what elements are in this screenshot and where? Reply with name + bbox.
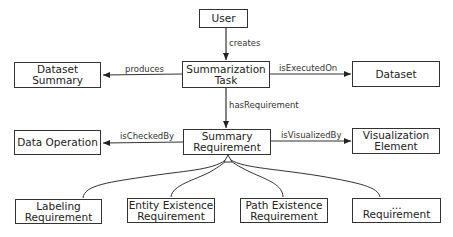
node-path-existence-requirement-line2: Requirement — [250, 211, 318, 222]
node-labeling-requirement[interactable]: Labeling Requirement — [15, 199, 102, 224]
edge-generalization-path — [228, 158, 283, 197]
generalization-triangle-icon — [224, 155, 232, 162]
edge-label-is-checked-by: isCheckedBy — [120, 131, 174, 141]
node-user-label: User — [212, 13, 236, 24]
node-user[interactable]: User — [199, 9, 248, 28]
node-summarization-task-line2: Task — [215, 75, 238, 86]
node-dataset[interactable]: Dataset — [352, 61, 440, 87]
node-summarization-task[interactable]: Summarization Task — [182, 61, 270, 88]
node-visualization-element[interactable]: Visualization Element — [352, 128, 440, 154]
edge-generalization-other — [228, 158, 380, 197]
node-dataset-summary[interactable]: Dataset Summary — [14, 62, 101, 88]
node-entity-existence-requirement-line2: Requirement — [137, 211, 205, 222]
node-summary-requirement-line2: Requirement — [193, 142, 261, 153]
node-visualization-element-line2: Element — [374, 141, 417, 152]
node-other-requirement[interactable]: ... Requirement — [352, 198, 441, 223]
edge-label-creates: creates — [229, 38, 260, 48]
node-labeling-requirement-line1: Labeling — [36, 201, 81, 212]
node-entity-existence-requirement-line1: Entity Existence — [129, 200, 214, 211]
edge-generalization-labeling — [83, 158, 228, 198]
edge-is-checked-by — [103, 142, 183, 143]
node-path-existence-requirement[interactable]: Path Existence Requirement — [240, 198, 328, 223]
node-dataset-summary-line2: Summary — [32, 75, 83, 86]
edge-label-has-requirement: hasRequirement — [229, 100, 299, 110]
edge-label-is-visualized-by: isVisualizedBy — [281, 130, 341, 140]
node-summarization-task-line1: Summarization — [186, 64, 266, 75]
node-summary-requirement[interactable]: Summary Requirement — [183, 129, 271, 155]
node-data-operation-label: Data Operation — [17, 137, 98, 148]
node-other-requirement-line2: Requirement — [363, 209, 431, 220]
node-path-existence-requirement-line1: Path Existence — [245, 200, 322, 211]
edge-label-produces: produces — [125, 64, 164, 74]
node-entity-existence-requirement[interactable]: Entity Existence Requirement — [127, 198, 215, 223]
node-data-operation[interactable]: Data Operation — [14, 130, 101, 155]
edge-label-is-executed-on: isExecutedOn — [279, 63, 337, 73]
node-dataset-label: Dataset — [375, 69, 416, 80]
node-labeling-requirement-line2: Requirement — [25, 212, 93, 223]
edge-produces — [103, 74, 182, 75]
